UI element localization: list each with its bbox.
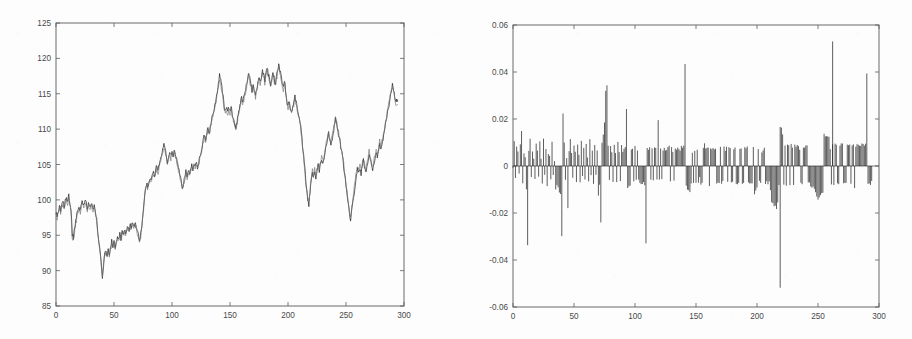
x-tick-label: 250: [339, 311, 353, 320]
x-tick-label: 0: [511, 312, 516, 321]
figure-page: 0501001502002503008590951001051101151201…: [0, 0, 912, 339]
plot-frame: [56, 23, 404, 306]
y-tick-label: 0: [503, 162, 508, 171]
left-chart-panel: 0501001502002503008590951001051101151201…: [0, 0, 456, 339]
y-tick-label: 105: [37, 161, 51, 170]
y-tick-label: -0.06: [489, 303, 508, 312]
x-tick-label: 200: [750, 312, 764, 321]
residual-series-plot: 050100150200250300-0.06-0.04-0.0200.020.…: [456, 0, 912, 339]
x-tick-label: 250: [811, 312, 825, 321]
y-tick-label: 0.06: [492, 21, 508, 30]
line-series-observed: [56, 64, 398, 279]
x-tick-label: 100: [628, 312, 642, 321]
right-chart-panel: 050100150200250300-0.06-0.04-0.0200.020.…: [456, 0, 912, 339]
y-tick-label: 100: [37, 196, 51, 205]
y-tick-label: 125: [37, 19, 51, 28]
y-tick-label: 120: [37, 54, 51, 63]
x-tick-label: 50: [109, 311, 119, 320]
x-tick-label: 150: [689, 312, 703, 321]
x-tick-label: 100: [165, 311, 179, 320]
y-tick-label: -0.04: [489, 256, 508, 265]
residual-bars: [513, 64, 872, 245]
x-tick-label: 200: [281, 311, 295, 320]
x-tick-label: 300: [872, 312, 886, 321]
x-tick-label: 300: [397, 311, 411, 320]
price-series-plot: 0501001502002503008590951001051101151201…: [0, 0, 456, 339]
y-tick-label: 90: [42, 267, 52, 276]
y-tick-label: 0.04: [492, 68, 508, 77]
y-tick-label: 115: [38, 90, 51, 99]
x-tick-label: 50: [569, 312, 579, 321]
x-tick-label: 0: [54, 311, 59, 320]
y-tick-label: 95: [42, 231, 52, 240]
line-series-fitted: [56, 68, 398, 277]
y-tick-label: 85: [42, 302, 52, 311]
x-tick-label: 150: [223, 311, 237, 320]
y-tick-label: 110: [38, 125, 51, 134]
y-tick-label: -0.02: [489, 209, 508, 218]
y-tick-label: 0.02: [492, 115, 508, 124]
